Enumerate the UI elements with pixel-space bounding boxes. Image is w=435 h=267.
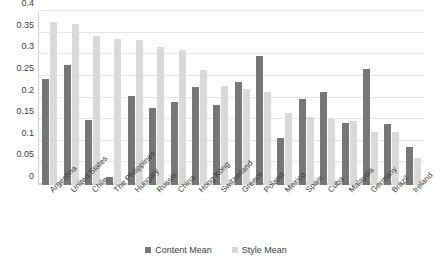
bar-group (253, 12, 274, 185)
y-axis-tick-label: 0.35 (16, 20, 34, 29)
x-axis-tick: Malaysia (338, 186, 359, 242)
y-axis: 00.050.10.150.20.250.30.350.4 (0, 12, 34, 185)
x-axis-tick: Mexico (274, 186, 295, 242)
x-axis-tick: Hong Kong (189, 186, 210, 242)
bar (342, 123, 349, 185)
legend-item: Style Mean (232, 245, 287, 255)
bar (256, 56, 263, 185)
bar (392, 132, 399, 185)
bar-group (60, 12, 81, 185)
gridline (39, 10, 424, 11)
y-axis-tick-label: 0.3 (21, 42, 34, 51)
bar-group (338, 12, 359, 185)
x-axis-tick: Cuba (317, 186, 338, 242)
x-axis-tick: Brazil (381, 186, 402, 242)
bar-group (189, 12, 210, 185)
bar (371, 132, 378, 185)
x-axis-tick: Hungary (125, 186, 146, 242)
bar (114, 39, 121, 185)
x-axis-tick: Greece (232, 186, 253, 242)
bar-group (210, 12, 231, 185)
bar (285, 113, 292, 185)
bar-group (381, 12, 402, 185)
x-axis-tick: Germany (360, 186, 381, 242)
bar (320, 92, 327, 185)
bar (157, 47, 164, 185)
y-axis-tick-label: 0 (29, 172, 34, 181)
x-axis-tick: Ireland (403, 186, 424, 242)
bar (192, 87, 199, 185)
y-axis-tick-label: 0.1 (21, 128, 34, 137)
bar (307, 117, 314, 185)
bar-group (296, 12, 317, 185)
y-axis-tick-label: 0.05 (16, 150, 34, 159)
x-axis-tick: Chile (82, 186, 103, 242)
x-axis: ArgentinaUnited StatesChileThe Philippin… (39, 186, 424, 242)
x-axis-tick: China (167, 186, 188, 242)
x-axis-tick: The Philippines (103, 186, 124, 242)
y-axis-tick-label: 0.15 (16, 107, 34, 116)
legend-swatch-icon (145, 247, 151, 253)
bar-group (360, 12, 381, 185)
bar (42, 79, 49, 185)
x-axis-tick: Switzerland (210, 186, 231, 242)
bar-group (274, 12, 295, 185)
bar (264, 92, 271, 185)
y-axis-tick-label: 0.4 (21, 0, 34, 8)
y-axis-tick-label: 0.2 (21, 85, 34, 94)
y-axis-tick-label: 0.25 (16, 63, 34, 72)
x-axis-tick: Spain (296, 186, 317, 242)
legend-label: Style Mean (242, 245, 287, 255)
x-axis-tick: Argentina (39, 186, 60, 242)
bar-group (317, 12, 338, 185)
bar (328, 119, 335, 185)
bar-group (167, 12, 188, 185)
chart-legend: Content MeanStyle Mean (0, 245, 432, 255)
bar-group (39, 12, 60, 185)
bar-group (232, 12, 253, 185)
legend-label: Content Mean (155, 245, 212, 255)
bar (200, 70, 207, 185)
x-axis-tick: Poland (253, 186, 274, 242)
legend-swatch-icon (232, 247, 238, 253)
bar (72, 24, 79, 185)
x-axis-tick: Russia (146, 186, 167, 242)
bar (179, 50, 186, 185)
bar (50, 22, 57, 185)
x-axis-tick: United States (60, 186, 81, 242)
legend-item: Content Mean (145, 245, 212, 255)
bar-group (403, 12, 424, 185)
bar (350, 121, 357, 185)
